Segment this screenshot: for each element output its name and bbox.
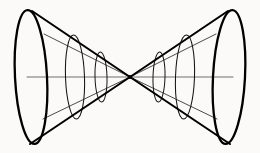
cone-apex-vertex-point xyxy=(128,75,132,79)
right-upper-inner-generator-line xyxy=(130,34,216,77)
right-lower-inner-generator-line xyxy=(130,77,217,119)
double-cone-figure: Double Cone (two nappes meeting at a com… xyxy=(0,0,260,153)
left-upper-inner-generator-line xyxy=(44,34,130,77)
left-lower-inner-generator-line xyxy=(43,77,130,119)
right-lower-silhouette-line xyxy=(130,77,230,144)
left-lower-silhouette-line xyxy=(30,77,130,144)
double-cone-drawing xyxy=(0,0,260,153)
